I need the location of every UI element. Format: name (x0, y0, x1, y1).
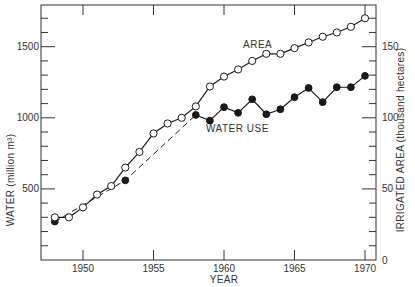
x-axis-title: YEAR (210, 274, 238, 285)
right-axis-title: IRRIGATED AREA (thousand hectares) (395, 48, 406, 233)
water-use-marker (221, 104, 228, 111)
area-marker (319, 33, 326, 40)
area-marker (206, 83, 213, 90)
area-marker (94, 191, 101, 198)
water-use-marker (291, 94, 298, 101)
area-marker (291, 45, 298, 52)
x-tick-label: 1970 (354, 263, 377, 274)
left-axis: 50010001500 (17, 18, 55, 246)
water-use-marker (192, 112, 199, 119)
area-marker (178, 114, 185, 121)
water-use-marker (263, 111, 270, 118)
area-marker (122, 164, 129, 171)
water-use-marker (277, 106, 284, 113)
water-use-line (196, 76, 365, 121)
x-axis: 19501955196019651970 (72, 5, 377, 274)
water-use-marker (122, 177, 129, 184)
area-marker (220, 73, 227, 80)
area-marker (235, 66, 242, 73)
water-use-marker (348, 84, 355, 91)
x-tick-label: 1955 (142, 263, 165, 274)
area-marker (361, 15, 368, 22)
area-marker (136, 148, 143, 155)
area-marker (108, 182, 115, 189)
right-axis: 050100150 (362, 18, 399, 265)
area-marker (192, 103, 199, 110)
area-marker (277, 50, 284, 57)
water-use-marker (333, 84, 340, 91)
x-tick-label: 1960 (213, 263, 236, 274)
water-use-series (51, 72, 368, 225)
tick-label: 500 (22, 183, 39, 194)
area-label: AREA (243, 39, 272, 50)
area-marker (249, 57, 256, 64)
water-use-label: WATER USE (206, 123, 269, 134)
tick-label: 0 (382, 255, 388, 266)
area-marker (79, 204, 86, 211)
water-use-marker (235, 109, 242, 116)
area-marker (164, 120, 171, 127)
water-use-marker (362, 72, 369, 79)
left-axis-title: WATER (million m³) (5, 134, 16, 227)
area-marker (51, 214, 58, 221)
area-marker (333, 29, 340, 36)
tick-label: 1500 (17, 41, 40, 52)
area-marker (263, 50, 270, 57)
tick-label: 1000 (17, 112, 40, 123)
chart: 50010001500 050100150 195019551960196519… (0, 0, 415, 287)
area-marker (347, 23, 354, 30)
water-use-marker (305, 85, 312, 92)
x-tick-label: 1950 (72, 263, 95, 274)
area-marker (150, 130, 157, 137)
tick-label: 50 (382, 183, 394, 194)
water-use-marker (319, 99, 326, 106)
water-use-marker (249, 96, 256, 103)
area-marker (305, 39, 312, 46)
area-marker (65, 214, 72, 221)
x-tick-label: 1965 (283, 263, 306, 274)
